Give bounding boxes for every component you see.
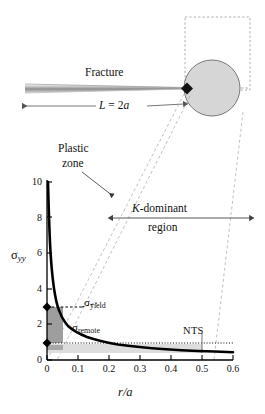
zoom-projection-line-right	[214, 112, 243, 360]
sigma-yield-subscript: yield	[90, 301, 106, 310]
x-tick-label: 0.3	[128, 364, 152, 374]
x-axis-denominator: a	[126, 385, 132, 399]
sigma-yy-subscript: yy	[18, 253, 26, 263]
x-tick-label: 0.4	[159, 364, 183, 374]
y-tick-label: 4	[26, 284, 42, 294]
crack-length-label: L = 2a	[99, 100, 129, 112]
nts-label: NTS	[183, 326, 204, 337]
x-tick-label: 0.5	[190, 364, 214, 374]
crack-length-equals: = 2	[105, 99, 123, 111]
k-symbol: K	[132, 202, 140, 214]
y-tick-label: 10	[26, 177, 42, 187]
plastic-zone-leader	[82, 172, 113, 196]
fracture-crack-shape	[25, 84, 186, 93]
plastic-zone-label-line1: Plastic	[58, 143, 89, 155]
sigma-symbol: σ	[11, 248, 18, 262]
k-dominant-text: -dominant	[140, 202, 187, 214]
k-dominant-label-line1: K-dominant	[132, 203, 187, 215]
sigma-yield-label: σyield	[84, 297, 106, 310]
crack-half-length-symbol: a	[123, 99, 129, 111]
y-tick-label: 8	[26, 213, 42, 223]
k-dominant-label-line2: region	[148, 222, 177, 234]
fracture-label: Fracture	[85, 67, 123, 79]
figure-crack-tip-stress: Fracture L = 2a Plastic zone K-dominant …	[0, 0, 265, 414]
x-tick-label: 0	[35, 364, 59, 374]
x-tick-label: 0.1	[66, 364, 90, 374]
x-tick-label: 0.6	[221, 364, 245, 374]
x-axis-label: r/a	[118, 386, 133, 399]
x-tick-marks	[47, 355, 233, 360]
plastic-zone-label-line2: zone	[62, 158, 84, 170]
sigma-remote-subscript: remote	[78, 326, 100, 335]
y-axis-label: σyy	[11, 249, 26, 263]
sigma-remote-label: σremote	[72, 322, 100, 335]
x-tick-label: 0.2	[97, 364, 121, 374]
plastic-zone-bar	[47, 345, 63, 350]
y-tick-label: 2	[26, 319, 42, 329]
y-tick-label: 6	[26, 248, 42, 258]
